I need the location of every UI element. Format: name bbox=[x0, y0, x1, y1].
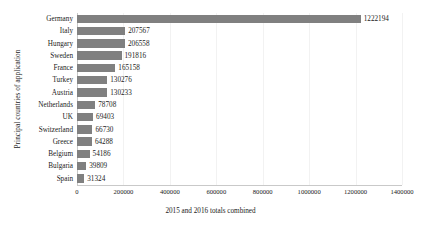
category-label: France bbox=[53, 62, 73, 74]
x-tick-label: 600000 bbox=[206, 188, 226, 195]
category-label: Belgium bbox=[48, 148, 73, 160]
x-tick-label: 0 bbox=[75, 188, 78, 195]
bar-row: Bulgaria39809 bbox=[77, 160, 402, 172]
bar bbox=[77, 174, 84, 182]
category-label: Hungary bbox=[48, 38, 73, 50]
bar bbox=[77, 76, 107, 84]
category-label: Sweden bbox=[50, 50, 73, 62]
plot-area: Spain31324Bulgaria39809Belgium54186Greec… bbox=[77, 13, 402, 185]
category-label: Italy bbox=[60, 25, 73, 37]
bar-row: Italy207567 bbox=[77, 25, 402, 37]
bar bbox=[77, 137, 92, 145]
bar bbox=[77, 27, 125, 35]
bar-value-label: 206558 bbox=[125, 38, 150, 50]
x-tick-label: 1200000 bbox=[344, 188, 367, 195]
bar bbox=[77, 15, 361, 23]
bar-value-label: 207567 bbox=[125, 25, 150, 37]
bar-row: Austria130233 bbox=[77, 87, 402, 99]
bar bbox=[77, 39, 125, 47]
bar-row: Germany1222194 bbox=[77, 13, 402, 25]
category-label: Austria bbox=[52, 87, 73, 99]
bar bbox=[77, 51, 122, 59]
bar-value-label: 31324 bbox=[84, 173, 105, 185]
bar-row: Turkey130276 bbox=[77, 74, 402, 86]
bar-value-label: 165158 bbox=[115, 62, 140, 74]
x-tick-label: 800000 bbox=[253, 188, 273, 195]
bar bbox=[77, 101, 95, 109]
bar-row: France165158 bbox=[77, 62, 402, 74]
bar bbox=[77, 150, 90, 158]
bar-row: Sweden191816 bbox=[77, 50, 402, 62]
bar-row: Netherlands78708 bbox=[77, 99, 402, 111]
bar bbox=[77, 113, 93, 121]
category-label: Greece bbox=[53, 136, 73, 148]
bar-value-label: 64288 bbox=[92, 136, 113, 148]
bar-value-label: 69403 bbox=[93, 111, 114, 123]
bar-value-label: 130233 bbox=[107, 87, 132, 99]
category-label: Turkey bbox=[52, 74, 73, 86]
category-label: UK bbox=[63, 111, 73, 123]
bar-value-label: 54186 bbox=[90, 148, 111, 160]
bar-value-label: 78708 bbox=[95, 99, 116, 111]
bar-value-label: 66730 bbox=[92, 124, 113, 136]
x-tick-label: 1400000 bbox=[390, 188, 413, 195]
x-tick-label: 400000 bbox=[160, 188, 180, 195]
bar-row: Switzerland66730 bbox=[77, 124, 402, 136]
bar-chart: Principal countries of application Spain… bbox=[0, 0, 421, 229]
x-axis-title: 2015 and 2016 totals combined bbox=[0, 207, 421, 215]
x-axis-line bbox=[77, 185, 402, 186]
category-label: Switzerland bbox=[39, 124, 73, 136]
bar bbox=[77, 64, 115, 72]
category-label: Bulgaria bbox=[48, 160, 73, 172]
x-tick-label: 200000 bbox=[114, 188, 134, 195]
bar-row: Hungary206558 bbox=[77, 38, 402, 50]
bar-row: Greece64288 bbox=[77, 136, 402, 148]
category-label: Spain bbox=[57, 173, 73, 185]
bar bbox=[77, 162, 86, 170]
bar-value-label: 191816 bbox=[122, 50, 147, 62]
bar-row: Spain31324 bbox=[77, 173, 402, 185]
category-label: Netherlands bbox=[38, 99, 73, 111]
bar-row: UK69403 bbox=[77, 111, 402, 123]
bar bbox=[77, 88, 107, 96]
gridline bbox=[402, 13, 403, 185]
bar-value-label: 39809 bbox=[86, 160, 107, 172]
category-label: Germany bbox=[46, 13, 73, 25]
bar bbox=[77, 125, 92, 133]
y-axis-title: Principal countries of application bbox=[14, 19, 22, 179]
bar-value-label: 130276 bbox=[107, 74, 132, 86]
x-tick-label: 1000000 bbox=[298, 188, 321, 195]
bar-row: Belgium54186 bbox=[77, 148, 402, 160]
bar-value-label: 1222194 bbox=[361, 13, 389, 25]
